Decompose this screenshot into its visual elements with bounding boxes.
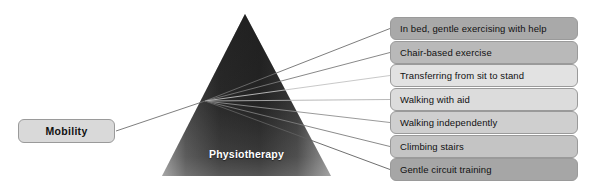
pyramid-label: Physiotherapy	[209, 148, 284, 160]
leaf-node[interactable]: Gentle circuit training	[390, 158, 578, 181]
connector-line	[205, 53, 390, 102]
connector-line	[205, 101, 390, 147]
connector-line	[205, 100, 390, 102]
connector-line	[205, 76, 390, 102]
leaf-node[interactable]: Walking independently	[390, 111, 578, 134]
leaf-node[interactable]: Chair-based exercise	[390, 41, 578, 64]
connector-line	[205, 29, 390, 102]
leaf-node[interactable]: Transferring from sit to stand	[390, 64, 578, 87]
diagram-canvas: Physiotherapy Mobility In bed, gentle ex…	[0, 0, 598, 184]
leaf-node[interactable]: Climbing stairs	[390, 135, 578, 158]
root-node-mobility[interactable]: Mobility	[18, 119, 115, 143]
leaf-node[interactable]: In bed, gentle exercising with help	[390, 17, 578, 40]
leaf-node[interactable]: Walking with aid	[390, 88, 578, 111]
connector-line-root	[116, 101, 205, 131]
